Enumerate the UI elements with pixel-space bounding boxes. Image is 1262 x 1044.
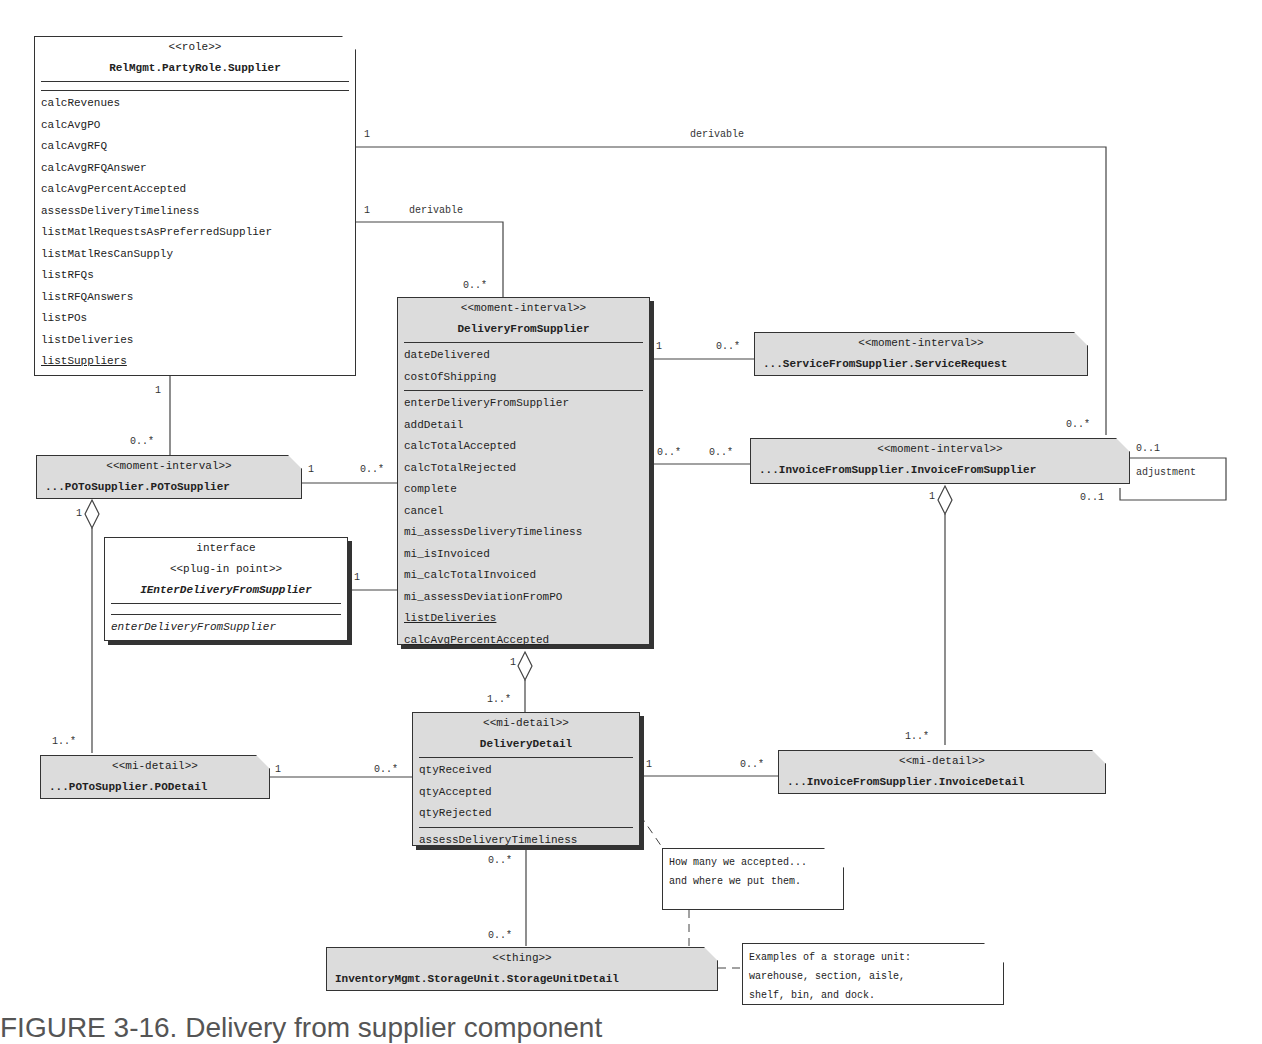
class-name: ...InvoiceFromSupplier.InvoiceFromSuppli… bbox=[751, 460, 1129, 481]
note-line: and where we put them. bbox=[669, 872, 837, 891]
divider bbox=[419, 827, 633, 828]
method: calcAvgPO bbox=[35, 115, 355, 137]
divider bbox=[41, 90, 349, 91]
class-name: ...ServiceFromSupplier.ServiceRequest bbox=[755, 354, 1087, 375]
attribute: qtyRejected bbox=[413, 803, 639, 825]
multiplicity: 0..* bbox=[716, 341, 740, 352]
method: calcRevenues bbox=[35, 93, 355, 115]
class-delivery-from-supplier[interactable]: <<moment-interval>> DeliveryFromSupplier… bbox=[397, 297, 650, 645]
divider bbox=[404, 342, 643, 343]
attribute: dateDelivered bbox=[398, 345, 649, 367]
figure-caption: FIGURE 3-16. Delivery from supplier comp… bbox=[0, 1012, 602, 1044]
note-line: How many we accepted... bbox=[669, 853, 837, 872]
class-invoice-from-supplier[interactable]: <<moment-interval>> ...InvoiceFromSuppli… bbox=[750, 438, 1130, 484]
multiplicity: 1 bbox=[646, 759, 652, 770]
method: mi_assessDeviationFromPO bbox=[398, 587, 649, 609]
method: calcAvgPercentAccepted bbox=[35, 179, 355, 201]
method: calcTotalRejected bbox=[398, 458, 649, 480]
aggregation-diamond-invoice bbox=[938, 486, 952, 514]
aggregation-diamond-delivery bbox=[518, 652, 532, 680]
association-label: adjustment bbox=[1136, 467, 1196, 478]
multiplicity: 0..1 bbox=[1136, 443, 1160, 454]
class-name: ...InvoiceFromSupplier.InvoiceDetail bbox=[779, 772, 1105, 793]
divider bbox=[404, 390, 643, 391]
multiplicity: 1..* bbox=[905, 731, 929, 742]
class-delivery-detail[interactable]: <<mi-detail>> DeliveryDetail qtyReceived… bbox=[412, 712, 640, 846]
multiplicity: 0..* bbox=[374, 764, 398, 775]
divider bbox=[419, 757, 633, 758]
method: listMatlResCanSupply bbox=[35, 244, 355, 266]
multiplicity: 0..* bbox=[488, 855, 512, 866]
multiplicity: 1 bbox=[656, 341, 662, 352]
multiplicity: 0..* bbox=[488, 930, 512, 941]
method: listDeliveries bbox=[35, 330, 355, 352]
interface-enter-delivery[interactable]: interface <<plug-in point>> IEnterDelive… bbox=[104, 537, 348, 641]
multiplicity: 1 bbox=[354, 572, 360, 583]
note-line: shelf, bin, and dock. bbox=[749, 986, 997, 1005]
multiplicity: 0..* bbox=[463, 280, 487, 291]
stereotype: <<mi-detail>> bbox=[779, 751, 1105, 772]
multiplicity: 0..* bbox=[709, 447, 733, 458]
class-po-to-supplier[interactable]: <<moment-interval>> ...POToSupplier.POTo… bbox=[36, 455, 302, 499]
multiplicity: 0..* bbox=[657, 447, 681, 458]
class-storage-unit-detail[interactable]: <<thing>> InventoryMgmt.StorageUnit.Stor… bbox=[326, 947, 718, 991]
class-name: InventoryMgmt.StorageUnit.StorageUnitDet… bbox=[327, 969, 717, 990]
method: mi_assessDeliveryTimeliness bbox=[398, 522, 649, 544]
multiplicity: 1 bbox=[76, 508, 82, 519]
attribute: qtyAccepted bbox=[413, 782, 639, 804]
method: enterDeliveryFromSupplier bbox=[398, 393, 649, 415]
class-po-detail[interactable]: <<mi-detail>> ...POToSupplier.PODetail bbox=[40, 755, 270, 799]
multiplicity: 1 bbox=[929, 491, 935, 502]
interface-keyword: interface bbox=[105, 538, 347, 559]
multiplicity: 1 bbox=[510, 657, 516, 668]
multiplicity: 0..* bbox=[740, 759, 764, 770]
stereotype: <<moment-interval>> bbox=[398, 298, 649, 319]
class-invoice-detail[interactable]: <<mi-detail>> ...InvoiceFromSupplier.Inv… bbox=[778, 750, 1106, 794]
method: calcAvgRFQAnswer bbox=[35, 158, 355, 180]
multiplicity: 0..1 bbox=[1080, 492, 1104, 503]
multiplicity: 0..* bbox=[360, 464, 384, 475]
method: enterDeliveryFromSupplier bbox=[105, 617, 347, 639]
multiplicity: 1 bbox=[275, 764, 281, 775]
method: assessDeliveryTimeliness bbox=[413, 830, 639, 852]
method: complete bbox=[398, 479, 649, 501]
divider bbox=[41, 81, 349, 82]
class-name: DeliveryDetail bbox=[413, 734, 639, 755]
method: listRFQs bbox=[35, 265, 355, 287]
multiplicity: 1 bbox=[364, 129, 370, 140]
stereotype: <<thing>> bbox=[327, 948, 717, 969]
note-accepted: How many we accepted... and where we put… bbox=[662, 848, 844, 910]
method: cancel bbox=[398, 501, 649, 523]
stereotype: <<moment-interval>> bbox=[751, 439, 1129, 460]
method: addDetail bbox=[398, 415, 649, 437]
multiplicity: 0..* bbox=[1066, 419, 1090, 430]
note-line: Examples of a storage unit: bbox=[749, 948, 997, 967]
method: listPOs bbox=[35, 308, 355, 330]
stereotype: <<plug-in point>> bbox=[105, 559, 347, 580]
multiplicity: 1 bbox=[364, 205, 370, 216]
multiplicity: 1..* bbox=[487, 694, 511, 705]
class-service-request[interactable]: <<moment-interval>> ...ServiceFromSuppli… bbox=[754, 332, 1088, 376]
class-supplier[interactable]: <<role>> RelMgmt.PartyRole.Supplier calc… bbox=[34, 36, 356, 376]
divider bbox=[111, 614, 341, 615]
multiplicity: 1 bbox=[308, 464, 314, 475]
method: assessDeliveryTimeliness bbox=[35, 201, 355, 223]
class-method: listSuppliers bbox=[35, 351, 355, 373]
attribute: qtyReceived bbox=[413, 760, 639, 782]
note-line: warehouse, section, aisle, bbox=[749, 967, 997, 986]
stereotype: <<role>> bbox=[35, 37, 355, 58]
class-name: ...POToSupplier.PODetail bbox=[41, 777, 269, 798]
multiplicity: 1 bbox=[155, 385, 161, 396]
multiplicity: 0..* bbox=[130, 436, 154, 447]
attribute: costOfShipping bbox=[398, 367, 649, 389]
class-name: ...POToSupplier.POToSupplier bbox=[37, 477, 301, 498]
method: listRFQAnswers bbox=[35, 287, 355, 309]
class-name: RelMgmt.PartyRole.Supplier bbox=[35, 58, 355, 79]
method: mi_calcTotalInvoiced bbox=[398, 565, 649, 587]
class-name: DeliveryFromSupplier bbox=[398, 319, 649, 340]
stereotype: <<mi-detail>> bbox=[41, 756, 269, 777]
method: calcTotalAccepted bbox=[398, 436, 649, 458]
multiplicity: 1..* bbox=[52, 736, 76, 747]
interface-name: IEnterDeliveryFromSupplier bbox=[105, 580, 347, 601]
class-method: listDeliveries bbox=[398, 608, 649, 630]
